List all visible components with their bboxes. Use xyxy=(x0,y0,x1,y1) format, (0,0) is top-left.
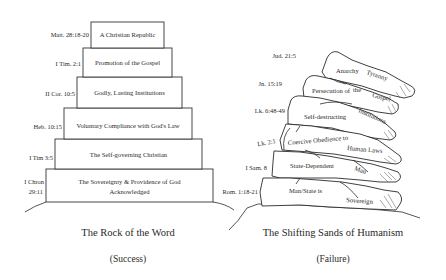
tier-2-label: Promotion of the Gospel xyxy=(95,59,160,66)
tier-6-box xyxy=(46,169,213,202)
rock-of-the-word-pyramid: A Christian Republic Promotion of the Go… xyxy=(24,22,234,265)
rock-6 xyxy=(260,178,402,210)
rock-3-ref: Lk. 6:48-49 xyxy=(255,107,285,114)
tier-6-label-line2: Acknowledged xyxy=(110,188,151,195)
tier-4-label: Voluntary Compliance with God's Law xyxy=(77,122,180,129)
diagram-canvas: A Christian Republic Promotion of the Go… xyxy=(0,0,446,280)
tier-1-ref: Matt. 28:18-20 xyxy=(51,31,89,38)
rock-6-ref: Rom. 1:18-21 xyxy=(222,188,258,195)
rock-3-label-a: Self-destructing xyxy=(304,113,347,120)
tier-2-ref: I Tim. 2:1 xyxy=(56,60,81,67)
tier-1-label: A Christian Republic xyxy=(100,31,156,38)
tier-5-ref: I Tim 3:5 xyxy=(29,154,53,161)
rock-5-ref: I Sam. 8 xyxy=(246,164,267,171)
rock-4-ref: Lk. 2:1 xyxy=(257,137,276,147)
rock-2-ref: Jn. 15:19 xyxy=(259,80,282,87)
ground-line-left xyxy=(25,202,46,212)
left-subtitle: (Success) xyxy=(110,254,146,265)
left-title: The Rock of the Word xyxy=(81,227,175,238)
right-subtitle: (Failure) xyxy=(316,254,349,265)
rock-2-label-a: Persecution of xyxy=(312,87,351,94)
tier-3-label: Godly, Lasting Institutions xyxy=(94,89,165,96)
rock-6-label-a: Man/State is xyxy=(289,187,323,194)
tier-6-ref-line2: 29:11 xyxy=(29,188,43,195)
tier-6-ref-line1: I Chron xyxy=(24,178,45,185)
rock-1-ref: Jud. 21:5 xyxy=(273,52,296,59)
tier-4-ref: Heb. 10:15 xyxy=(34,123,62,130)
right-title: The Shifting Sands of Humanism xyxy=(263,227,404,238)
rock-2-label-b: the xyxy=(353,86,361,93)
rock-5-label-a: State-Dependent xyxy=(290,162,334,169)
shifting-sands-rocks: Anarchy Tyranny Persecution of the Gospe… xyxy=(222,52,420,265)
tier-6-label-line1: The Sovereignty & Providence of God xyxy=(79,178,182,185)
ground-line-right xyxy=(213,202,234,210)
tier-5-label: The Self-governing Christian xyxy=(90,151,168,158)
tier-3-ref: II Cor. 10:5 xyxy=(45,90,75,97)
rock-1-label-a: Anarchy xyxy=(336,67,359,74)
